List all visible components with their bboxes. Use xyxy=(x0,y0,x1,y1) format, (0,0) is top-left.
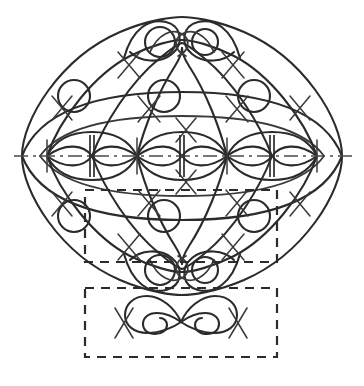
figure-root: Plane curve singularity resolution diagr… xyxy=(0,0,364,386)
diagonal-strands-a xyxy=(47,40,317,156)
isolated-motif xyxy=(115,296,247,338)
figure-canvas xyxy=(0,0,364,386)
